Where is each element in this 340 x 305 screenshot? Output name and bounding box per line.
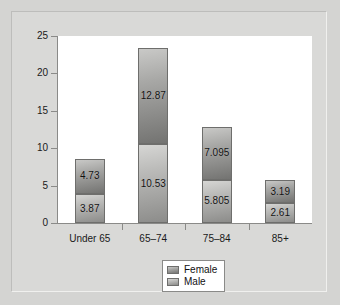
chart-legend: Female Male <box>162 260 225 292</box>
chart-figure: 0510152025 Under 6565–7475–8485+ 3.874.7… <box>0 0 340 305</box>
bar-segment-female[interactable]: 3.19 <box>265 180 295 204</box>
y-tick-label: 15 <box>37 106 48 116</box>
bar-value-label: 5.805 <box>204 196 229 206</box>
x-tick-mark <box>185 223 186 230</box>
bar-stack[interactable]: 10.5312.87 <box>138 48 168 223</box>
bar-segment-female[interactable]: 4.73 <box>75 159 105 194</box>
y-tick-mark <box>51 73 57 74</box>
y-tick-mark <box>51 36 57 37</box>
x-tick-label: Under 65 <box>69 233 110 244</box>
bar-value-label: 2.61 <box>271 208 290 218</box>
bar-segment-male[interactable]: 5.805 <box>202 180 232 223</box>
y-tick-label: 20 <box>37 68 48 78</box>
legend-label-male: Male <box>184 277 206 287</box>
plot-area: 0510152025 Under 6565–7475–8485+ 3.874.7… <box>57 36 312 224</box>
legend-swatch-male-icon <box>167 278 179 286</box>
x-tick-label: 85+ <box>272 233 289 244</box>
legend-item-female[interactable]: Female <box>167 264 217 276</box>
legend-swatch-female-icon <box>167 266 179 274</box>
bar-value-label: 12.87 <box>141 91 166 101</box>
y-tick-label: 0 <box>42 218 48 228</box>
bar-segment-female[interactable]: 7.095 <box>202 127 232 180</box>
bar-value-label: 4.73 <box>80 171 99 181</box>
bar-segment-female[interactable]: 12.87 <box>138 48 168 144</box>
bar-stack[interactable]: 3.874.73 <box>75 159 105 223</box>
legend-item-male[interactable]: Male <box>167 276 217 288</box>
bar-value-label: 7.095 <box>204 148 229 158</box>
bar-stack[interactable]: 2.613.19 <box>265 180 295 223</box>
x-tick-label: 65–74 <box>139 233 167 244</box>
bar-value-label: 10.53 <box>141 179 166 189</box>
y-tick-mark <box>51 148 57 149</box>
x-tick-label: 75–84 <box>203 233 231 244</box>
bar-segment-male[interactable]: 3.87 <box>75 194 105 223</box>
legend-label-female: Female <box>184 265 217 275</box>
x-tick-mark <box>249 223 250 230</box>
y-tick-label: 10 <box>37 143 48 153</box>
bar-segment-male[interactable]: 10.53 <box>138 144 168 223</box>
bar-value-label: 3.87 <box>80 204 99 214</box>
y-tick-mark <box>51 186 57 187</box>
x-tick-mark <box>122 223 123 230</box>
y-tick-mark <box>51 223 57 224</box>
y-tick-mark <box>51 111 57 112</box>
bar-value-label: 3.19 <box>271 187 290 197</box>
chart-frame: 0510152025 Under 6565–7475–8485+ 3.874.7… <box>11 11 327 292</box>
bar-segment-male[interactable]: 2.61 <box>265 203 295 223</box>
y-tick-label: 25 <box>37 31 48 41</box>
bar-stack[interactable]: 5.8057.095 <box>202 127 232 223</box>
y-tick-label: 5 <box>42 181 48 191</box>
